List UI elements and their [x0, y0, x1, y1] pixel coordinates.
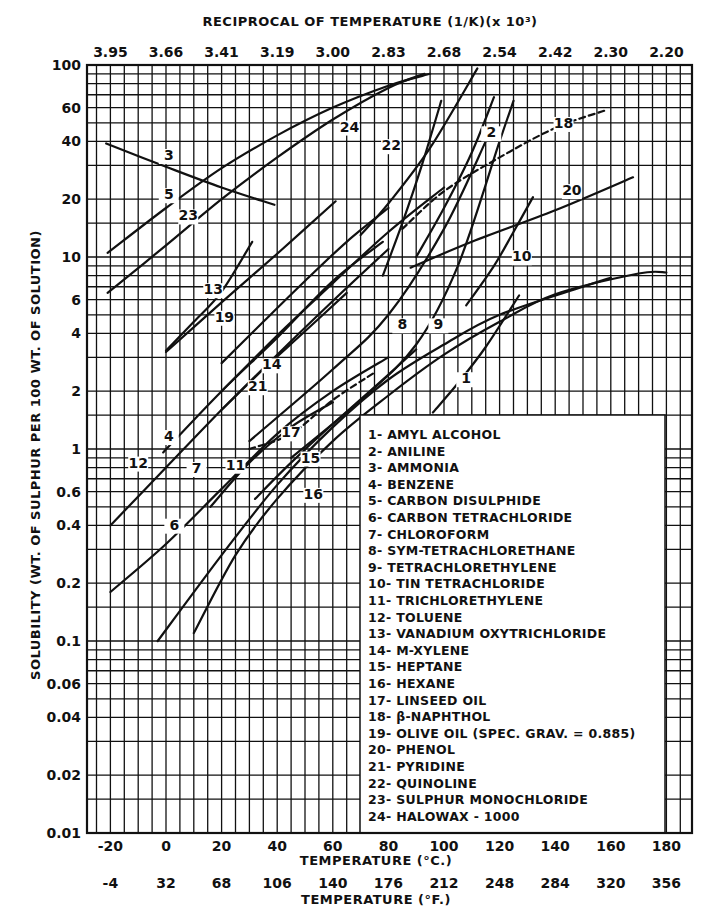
x-tick-label-c: -20	[98, 838, 124, 854]
y-tick-label: 6	[71, 292, 81, 308]
legend-item: 14- M-XYLENE	[368, 643, 469, 658]
legend-item: 22- QUINOLINE	[368, 776, 477, 791]
top-tick-label: 2.54	[482, 44, 517, 60]
legend-item: 13- VANADIUM OXYTRICHLORIDE	[368, 626, 606, 641]
legend-item: 5- CARBON DISULPHIDE	[368, 493, 541, 508]
y-tick-label: 0.6	[56, 484, 81, 500]
y-tick-label: 0.1	[56, 633, 81, 649]
curve-label-9: 9	[434, 316, 444, 332]
y-tick-label: 0.04	[46, 709, 81, 725]
y-tick-label: 0.01	[46, 825, 81, 841]
legend-item: 20- PHENOL	[368, 742, 455, 757]
legend-item: 19- OLIVE OIL (SPEC. GRAV. = 0.885)	[368, 726, 635, 741]
y-tick-label: 1	[71, 441, 81, 457]
x-tick-label-c: 160	[596, 838, 625, 854]
x-tick-label-f: -4	[103, 875, 119, 891]
curve-label-7: 7	[192, 460, 202, 476]
x-tick-label-c: 120	[485, 838, 514, 854]
legend-item: 6- CARBON TETRACHLORIDE	[368, 510, 572, 525]
x-tick-label-f: 248	[485, 875, 514, 891]
y-tick-label: 60	[62, 100, 82, 116]
curve-label-21: 21	[248, 378, 267, 394]
y-tick-label: 0.02	[46, 767, 81, 783]
top-tick-label: 2.42	[538, 44, 573, 60]
x-tick-label-f: 106	[263, 875, 292, 891]
legend-item: 21- PYRIDINE	[368, 759, 465, 774]
x-tick-label-c: 80	[379, 838, 399, 854]
top-tick-label: 2.30	[594, 44, 629, 60]
curve-label-17: 17	[281, 424, 300, 440]
solubility-chart: 1- AMYL ALCOHOL2- ANILINE3- AMMONIA4- BE…	[0, 0, 713, 922]
y-tick-label: 100	[52, 57, 81, 73]
legend-item: 2- ANILINE	[368, 444, 446, 459]
legend-item: 7- CHLOROFORM	[368, 527, 489, 542]
legend-item: 11- TRICHLORETHYLENE	[368, 593, 543, 608]
x-tick-label-f: 356	[652, 875, 681, 891]
curve-label-24: 24	[340, 119, 360, 135]
curve-label-15: 15	[301, 450, 320, 466]
top-tick-label: 2.83	[371, 44, 406, 60]
y-tick-label: 20	[62, 191, 82, 207]
x-tick-label-c: 0	[161, 838, 171, 854]
x-axis-title-celsius: TEMPERATURE (°C.)	[300, 853, 452, 868]
curve-label-4: 4	[164, 428, 174, 444]
x-tick-label-f: 320	[596, 875, 625, 891]
curve-label-20: 20	[562, 182, 582, 198]
curve-label-14: 14	[262, 356, 282, 372]
top-tick-label: 3.95	[93, 44, 128, 60]
curve-label-19: 19	[215, 309, 234, 325]
legend-item: 4- BENZENE	[368, 477, 454, 492]
legend-item: 12- TOLUENE	[368, 610, 463, 625]
legend-item: 15- HEPTANE	[368, 659, 463, 674]
legend-item: 16- HEXANE	[368, 676, 455, 691]
top-tick-label: 3.41	[204, 44, 239, 60]
legend-item: 23- SULPHUR MONOCHLORIDE	[368, 792, 588, 807]
legend-item: 10- TIN TETRACHLORIDE	[368, 576, 545, 591]
legend-item: 9- TETRACHLORETHYLENE	[368, 560, 557, 575]
x-tick-label-f: 212	[429, 875, 458, 891]
y-tick-label: 0.06	[46, 676, 81, 692]
legend-item: 18- β-NAPHTHOL	[368, 709, 491, 724]
legend-item: 17- LINSEED OIL	[368, 693, 487, 708]
top-tick-label: 3.66	[149, 44, 184, 60]
x-tick-label-f: 140	[318, 875, 347, 891]
curve-label-11: 11	[226, 457, 245, 473]
x-tick-label-c: 60	[323, 838, 343, 854]
curve-label-23: 23	[178, 207, 197, 223]
x-tick-label-c: 20	[212, 838, 232, 854]
top-tick-label: 2.68	[427, 44, 462, 60]
top-tick-label: 3.19	[260, 44, 295, 60]
curve-label-18: 18	[554, 115, 573, 131]
x-tick-label-f: 284	[541, 875, 570, 891]
x-tick-label-f: 68	[212, 875, 231, 891]
curve-label-12: 12	[128, 455, 147, 471]
x-tick-label-c: 140	[541, 838, 570, 854]
curve-label-13: 13	[204, 281, 223, 297]
curve-label-6: 6	[169, 517, 179, 533]
y-tick-label: 4	[71, 325, 81, 341]
top-tick-label: 2.20	[649, 44, 684, 60]
curve-label-3: 3	[164, 147, 174, 163]
x-axis-title-fahrenheit: TEMPERATURE (°F.)	[301, 892, 451, 907]
x-tick-label-c: 40	[267, 838, 287, 854]
legend-item: 1- AMYL ALCOHOL	[368, 427, 501, 442]
curve-21	[222, 293, 347, 410]
curve-label-5: 5	[164, 186, 174, 202]
legend-item: 8- SYM-TETRACHLORETHANE	[368, 543, 575, 558]
x-tick-label-f: 176	[374, 875, 403, 891]
x-tick-label-c: 100	[429, 838, 458, 854]
curve-label-8: 8	[397, 316, 407, 332]
curve-2	[416, 97, 494, 257]
y-tick-label: 0.2	[56, 575, 81, 591]
curve-label-2: 2	[486, 124, 496, 140]
y-tick-label: 10	[62, 249, 82, 265]
top-axis-title: RECIPROCAL OF TEMPERATURE (1/K)(x 10³)	[202, 14, 537, 29]
legend: 1- AMYL ALCOHOL2- ANILINE3- AMMONIA4- BE…	[360, 415, 665, 833]
y-tick-label: 2	[71, 383, 81, 399]
x-tick-label-f: 32	[156, 875, 175, 891]
y-axis-title: SOLUBILITY (WT. OF SULPHUR PER 100 WT. O…	[28, 230, 43, 680]
curve-label-22: 22	[381, 137, 400, 153]
curve-label-16: 16	[304, 486, 323, 502]
curve-17	[249, 373, 374, 449]
y-tick-label: 40	[62, 133, 82, 149]
